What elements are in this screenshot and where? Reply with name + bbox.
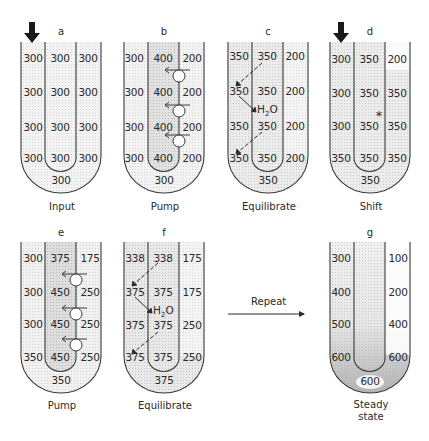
panel-caption: Shift: [319, 200, 423, 213]
left-limb-value: 300: [21, 121, 45, 133]
right-limb-value: 200: [386, 286, 410, 298]
right-limb-value: 175: [78, 252, 102, 264]
middle-limb-value: 350: [357, 53, 381, 65]
left-limb-value: 300: [329, 252, 353, 264]
right-limb-value: 300: [76, 121, 100, 133]
water-o: O: [269, 103, 277, 115]
water-o: O: [165, 304, 173, 316]
left-limb-value: 300: [21, 52, 45, 64]
middle-limb-value: 450: [48, 286, 72, 298]
right-limb-value: 200: [180, 121, 204, 133]
left-limb-value: 350: [227, 152, 251, 164]
left-limb-value: 300: [122, 152, 146, 164]
bend-value: 600: [358, 375, 382, 387]
panel-letter: b: [154, 26, 174, 37]
right-limb-value: 300: [76, 52, 100, 64]
panel-d: d 300 350 200 300 350 350 300 350 * 350 …: [319, 0, 423, 220]
repeat-transition: Repeat: [225, 296, 310, 326]
right-limb-value: 200: [283, 50, 307, 62]
bend-value: 350: [358, 174, 382, 186]
right-limb-value: 600: [386, 351, 410, 363]
panel-letter: f: [154, 227, 174, 238]
left-limb-value: 300: [329, 120, 353, 132]
left-limb-value: 375: [123, 319, 147, 331]
right-limb-value: 200: [180, 152, 204, 164]
panel-caption: Pump: [10, 399, 114, 412]
middle-limb-value: 300: [48, 86, 72, 98]
right-limb-value: 100: [386, 252, 410, 264]
panel-letter: e: [51, 227, 71, 238]
middle-limb-value: 375: [151, 286, 175, 298]
right-limb-value: 350: [385, 120, 409, 132]
panel-letter: d: [360, 26, 380, 37]
right-limb-value: 200: [385, 53, 409, 65]
middle-limb-value: 400: [151, 52, 175, 64]
bend-value: 350: [256, 174, 280, 186]
middle-limb-value: 450: [48, 351, 72, 363]
right-limb-value: 250: [78, 318, 102, 330]
right-limb-value: 250: [78, 286, 102, 298]
water-h: H: [257, 103, 265, 115]
panel-f: f 338 338 175 375 375 175 H2O 375 375 25…: [113, 220, 217, 441]
right-limb-value: 250: [180, 319, 204, 331]
left-limb-value: 300: [329, 87, 353, 99]
left-limb-value: 600: [329, 351, 353, 363]
right-limb-value: 300: [76, 86, 100, 98]
middle-limb-value: 450: [48, 318, 72, 330]
panel-g: g 300 100 400 200 500 400 600 600 600 St…: [319, 220, 423, 441]
right-limb-value: 350: [385, 87, 409, 99]
panel-caption: Pump: [113, 200, 217, 213]
right-limb-value: 200: [283, 152, 307, 164]
middle-limb-value: 350: [357, 152, 381, 164]
panel-letter: g: [360, 227, 380, 238]
right-limb-value: 250: [78, 351, 102, 363]
left-limb-value: 375: [123, 351, 147, 363]
left-limb-value: 400: [329, 286, 353, 298]
bend-value: 300: [152, 174, 176, 186]
right-limb-value: 200: [180, 86, 204, 98]
left-limb-value: 350: [227, 50, 251, 62]
middle-limb-value: 300: [48, 152, 72, 164]
middle-limb-value: 400: [151, 86, 175, 98]
bend-value: 300: [49, 174, 73, 186]
panel-a: a 300 300 300 300 300 300 300 300 300 30…: [10, 0, 114, 220]
right-limb-value: 175: [180, 252, 204, 264]
middle-limb-value: 350: [255, 152, 279, 164]
water-h: H: [153, 304, 161, 316]
bend-value: 375: [152, 374, 176, 386]
left-limb-value: 375: [123, 286, 147, 298]
water-label: H2O: [153, 304, 174, 319]
middle-limb-value: 350: [255, 50, 279, 62]
left-limb-value: 500: [329, 318, 353, 330]
water-label: H2O: [257, 103, 278, 118]
panel-c: c 350 350 200 350 350 200 H2O 350 350 20…: [217, 0, 321, 220]
left-limb-value: 300: [21, 152, 45, 164]
left-limb-value: 350: [21, 351, 45, 363]
right-limb-value: 175: [180, 286, 204, 298]
left-limb-value: 300: [21, 86, 45, 98]
panel-letter: c: [258, 26, 278, 37]
panel-caption: Equilibrate: [217, 200, 321, 213]
right-arrow-icon: [225, 296, 310, 326]
panel-e: e 300 375 175 300 450 250 300 450 250 35…: [10, 220, 114, 441]
middle-limb-value: 400: [151, 121, 175, 133]
panel-caption-line-2: state: [319, 410, 423, 423]
right-limb-value: 350: [385, 152, 409, 164]
left-limb-value: 300: [329, 53, 353, 65]
middle-limb-value: 338: [151, 252, 175, 264]
left-limb-value: 300: [21, 318, 45, 330]
left-limb-value: 350: [329, 152, 353, 164]
middle-limb-value: 375: [151, 319, 175, 331]
right-limb-value: 300: [76, 152, 100, 164]
middle-limb-value: 350: [255, 85, 279, 97]
right-limb-value: 200: [180, 52, 204, 64]
right-limb-value: 400: [386, 318, 410, 330]
middle-limb-value: 400: [151, 152, 175, 164]
panel-caption: Input: [10, 200, 114, 213]
right-limb-value: 250: [180, 351, 204, 363]
left-limb-value: 300: [21, 252, 45, 264]
middle-limb-value: 375: [48, 252, 72, 264]
left-limb-value: 300: [21, 286, 45, 298]
middle-limb-value: 350: [255, 120, 279, 132]
left-limb-value: 300: [122, 86, 146, 98]
